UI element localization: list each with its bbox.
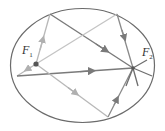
focus-f1-subscript: 1 (29, 51, 33, 59)
ellipse-reflection-diagram: F1 F2 (0, 0, 165, 131)
focus-f2-label: F2 (142, 46, 153, 61)
focus-f2-point (131, 66, 135, 70)
focus-f2-subscript: 2 (149, 53, 153, 61)
focus-f1-label: F1 (22, 44, 33, 59)
diagram-canvas (0, 0, 165, 131)
ray-2 (36, 14, 133, 68)
ray-1 (36, 14, 133, 68)
focus-f1-dot (33, 61, 38, 66)
